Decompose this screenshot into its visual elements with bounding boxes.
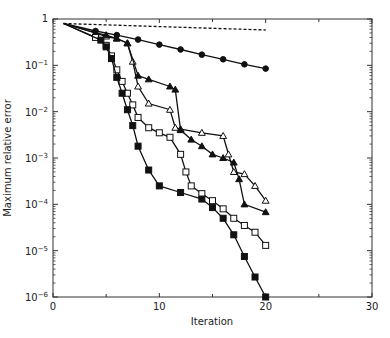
x-tick-label: 20 xyxy=(259,301,272,312)
series-line xyxy=(64,24,266,298)
circle-marker xyxy=(178,47,184,53)
square-marker xyxy=(252,274,258,280)
x-axis-label: Iteration xyxy=(191,316,233,327)
square-marker xyxy=(146,125,152,131)
square-marker xyxy=(178,190,184,196)
triangle-marker xyxy=(241,201,248,207)
square-marker xyxy=(183,169,189,175)
square-marker xyxy=(108,56,114,62)
square-marker xyxy=(156,183,162,189)
square-marker xyxy=(220,215,226,221)
square-marker xyxy=(156,130,162,136)
square-marker xyxy=(188,183,194,189)
y-tick-label: 10−2 xyxy=(25,106,48,118)
square-marker xyxy=(114,74,120,80)
circle-marker xyxy=(263,66,269,72)
square-marker xyxy=(231,215,237,221)
square-marker xyxy=(263,294,269,300)
x-tick-label: 30 xyxy=(366,301,379,312)
square-marker xyxy=(130,123,136,129)
square-marker xyxy=(252,229,258,235)
square-marker xyxy=(135,143,141,149)
square-marker xyxy=(241,253,247,259)
square-marker xyxy=(220,206,226,212)
square-marker xyxy=(135,114,141,120)
y-tick-label: 10−4 xyxy=(25,198,49,210)
square-marker xyxy=(103,44,109,50)
plot-frame xyxy=(53,19,372,297)
line-chart: 0102030110−110−210−310−410−510−6 Iterati… xyxy=(0,0,390,338)
circle-marker xyxy=(157,42,163,48)
y-tick-label: 10−1 xyxy=(25,59,48,71)
triangle-marker xyxy=(145,100,152,106)
series-line xyxy=(64,24,266,213)
circle-marker xyxy=(242,62,248,68)
triangle-marker xyxy=(172,124,179,130)
square-marker xyxy=(210,205,216,211)
y-tick-label: 1 xyxy=(42,13,48,24)
square-marker xyxy=(199,196,205,202)
circle-marker xyxy=(135,37,141,43)
square-marker xyxy=(241,222,247,228)
triangle-marker xyxy=(135,83,142,89)
square-marker xyxy=(178,151,184,157)
square-marker xyxy=(263,242,269,248)
square-marker xyxy=(146,167,152,173)
series-line xyxy=(64,24,266,246)
plot-series xyxy=(64,24,269,301)
chart-svg: 0102030110−110−210−310−410−510−6 Iterati… xyxy=(0,0,390,338)
square-marker xyxy=(119,90,125,96)
square-marker xyxy=(231,232,237,238)
y-tick-label: 10−5 xyxy=(25,245,48,257)
square-marker xyxy=(167,134,173,140)
square-marker xyxy=(210,198,216,204)
y-tick-label: 10−6 xyxy=(25,291,49,303)
circle-marker xyxy=(220,56,226,62)
triangle-marker xyxy=(225,151,232,157)
y-axis-label: Maximum relative error xyxy=(2,98,13,216)
y-tick-label: 10−3 xyxy=(25,152,48,164)
square-marker xyxy=(124,107,130,113)
triangle-marker xyxy=(198,143,205,149)
circle-marker xyxy=(199,52,205,58)
x-tick-label: 10 xyxy=(153,301,166,312)
square-marker xyxy=(98,37,104,43)
x-tick-label: 0 xyxy=(50,301,56,312)
